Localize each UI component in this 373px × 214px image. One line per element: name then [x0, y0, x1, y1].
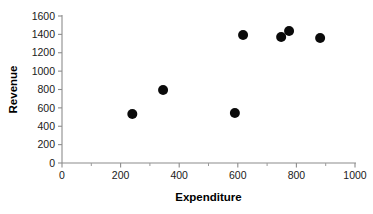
y-axis-tick-label: 1200: [32, 46, 56, 58]
y-axis-tick-label: 600: [37, 102, 55, 114]
y-axis-title: Revenue: [7, 66, 19, 114]
y-axis-tick-label: 1600: [32, 10, 56, 22]
chart-canvas: 0200400600800100012001400160002004006008…: [0, 0, 373, 214]
y-axis-tick-label: 0: [49, 157, 55, 169]
data-point: [315, 33, 325, 43]
scatter-chart: 0200400600800100012001400160002004006008…: [0, 0, 373, 214]
y-axis-tick-label: 800: [37, 83, 55, 95]
x-axis-tick-label: 600: [229, 169, 247, 181]
y-axis-tick-label: 1400: [32, 28, 56, 40]
y-axis-tick-label: 400: [37, 120, 55, 132]
y-axis-tick-label: 1000: [32, 65, 56, 77]
data-point: [230, 108, 240, 118]
data-point: [127, 109, 137, 119]
data-point: [158, 85, 168, 95]
x-axis-tick-label: 0: [59, 169, 65, 181]
data-point: [238, 30, 248, 40]
data-point: [284, 26, 294, 36]
y-axis-tick-label: 200: [37, 138, 55, 150]
x-axis-tick-label: 800: [288, 169, 306, 181]
x-axis-tick-label: 200: [112, 169, 130, 181]
x-axis-title: Expenditure: [175, 191, 241, 203]
x-axis-tick-label: 1000: [343, 169, 367, 181]
data-point: [276, 32, 286, 42]
x-axis-tick-label: 400: [170, 169, 188, 181]
